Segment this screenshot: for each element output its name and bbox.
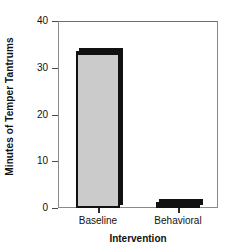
y-axis-tick-label: 30 xyxy=(37,63,48,73)
bar-chart-figure: Minutes of Temper Tantrums 010203040 Bas… xyxy=(0,0,231,251)
y-axis-tick xyxy=(52,161,58,162)
y-axis-tick-label: 20 xyxy=(37,110,48,120)
y-axis-tick xyxy=(52,115,58,116)
x-axis-tick xyxy=(178,208,180,213)
x-axis-tick-label: Baseline xyxy=(58,215,138,226)
x-axis-tick xyxy=(98,208,100,213)
y-axis-tick xyxy=(52,21,58,22)
y-axis-tick-label: 10 xyxy=(37,156,48,166)
y-axis-tick xyxy=(52,208,58,209)
y-axis-title-label: Minutes of Temper Tantrums xyxy=(4,37,15,175)
y-axis-tick-label: 0 xyxy=(42,203,48,213)
x-axis-tick-label: Behavioral xyxy=(138,215,218,226)
bar-baseline xyxy=(76,51,120,208)
y-axis-tick-label: 40 xyxy=(37,16,48,26)
y-axis-tick xyxy=(52,68,58,69)
x-axis-title: Intervention xyxy=(58,233,218,244)
y-axis-title: Minutes of Temper Tantrums xyxy=(0,0,18,212)
